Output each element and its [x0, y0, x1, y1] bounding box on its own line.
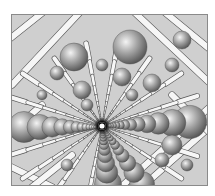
image-frame: [11, 14, 208, 186]
center-light-icon: [99, 123, 105, 129]
lattice-render: [12, 15, 208, 186]
lattice-figure: [0, 0, 215, 196]
